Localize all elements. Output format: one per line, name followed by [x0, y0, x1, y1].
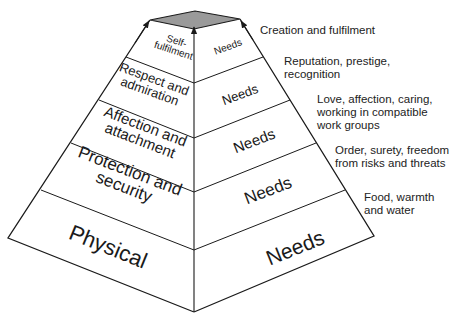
description-line: work groups — [317, 119, 380, 131]
description-protection: Order, surety, freedom from risks and th… — [335, 144, 449, 170]
description-physical: Food, warmth and water — [364, 191, 434, 217]
description-line: Love, affection, caring, — [317, 93, 433, 105]
pyramid-top-face — [150, 11, 240, 29]
description-line: Food, warmth — [364, 191, 434, 203]
description-line: and water — [364, 204, 415, 216]
description-line: Creation and fulfilment — [260, 24, 375, 36]
description-affection: Love, affection, caring, working in comp… — [317, 93, 433, 132]
description-self-fulfilment: Creation and fulfilment — [260, 24, 375, 37]
description-respect: Reputation, prestige, recognition — [284, 55, 390, 81]
description-line: working in compatible — [317, 106, 428, 118]
description-line: Order, surety, freedom — [335, 144, 449, 156]
description-line: from risks and threats — [335, 157, 446, 169]
description-line: recognition — [284, 68, 340, 80]
description-line: Reputation, prestige, — [284, 55, 390, 67]
